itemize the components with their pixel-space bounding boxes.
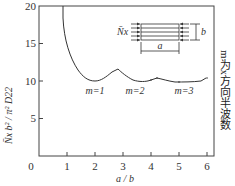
x-ticks xyxy=(67,152,207,156)
svg-text:3: 3 xyxy=(120,160,126,172)
plate-inset xyxy=(131,24,200,54)
svg-text:15: 15 xyxy=(25,37,37,49)
inset-b-label: b xyxy=(201,26,206,37)
label-m3: m=3 xyxy=(175,85,194,96)
inset-force-label: N̄x xyxy=(116,26,129,37)
chart: 20 15 10 5 0 1 2 3 4 5 6 a / b m=1 m=2 m… xyxy=(0,0,235,186)
side-note: m为x方向半波数 xyxy=(217,50,233,130)
label-m1: m=1 xyxy=(86,85,105,96)
label-m2: m=2 xyxy=(126,85,145,96)
buckling-curve xyxy=(63,6,206,82)
svg-text:5: 5 xyxy=(31,112,37,124)
y-axis-title: N̄x b² / π² D22 xyxy=(3,87,14,145)
svg-text:5: 5 xyxy=(176,160,182,172)
svg-text:20: 20 xyxy=(25,0,37,12)
y-tick-labels: 20 15 10 5 xyxy=(25,0,37,124)
svg-text:0: 0 xyxy=(28,160,34,172)
y-axis-title-box: N̄x b² / π² D22 xyxy=(1,56,15,146)
svg-text:4: 4 xyxy=(148,160,154,172)
inset-a-label: a xyxy=(158,40,163,51)
svg-text:1: 1 xyxy=(64,160,70,172)
svg-text:2: 2 xyxy=(92,160,98,172)
y-ticks xyxy=(39,44,43,119)
svg-text:6: 6 xyxy=(204,160,210,172)
svg-text:10: 10 xyxy=(25,75,37,87)
x-tick-labels: 0 1 2 3 4 5 6 xyxy=(28,160,210,172)
x-axis-title: a / b xyxy=(116,173,134,184)
